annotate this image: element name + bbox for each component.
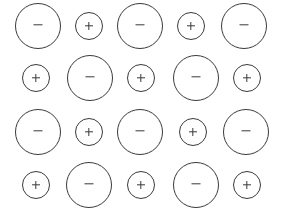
charge-circle-negative-r4c4: [173, 162, 219, 208]
glyph-bar-vertical: [190, 22, 191, 30]
charge-circle-positive-r4c1: [22, 171, 50, 199]
minus-icon: [222, 4, 266, 48]
glyph-bar-vertical: [246, 181, 247, 189]
charge-circle-negative-r3c1: [15, 109, 61, 155]
glyph-bar-horizontal: [34, 24, 43, 25]
glyph-bar-vertical: [35, 181, 36, 189]
glyph-bar-vertical: [35, 74, 36, 82]
charge-circle-positive-r3c4: [179, 118, 207, 146]
plus-icon: [180, 119, 206, 145]
plus-icon: [23, 172, 49, 198]
minus-icon: [16, 4, 60, 48]
charge-grid: [0, 0, 282, 219]
plus-icon: [234, 65, 260, 91]
plus-icon: [234, 172, 260, 198]
glyph-bar-horizontal: [86, 76, 95, 77]
plus-icon: [23, 65, 49, 91]
minus-icon: [67, 163, 111, 207]
glyph-bar-vertical: [192, 128, 193, 136]
plus-icon: [76, 13, 102, 39]
glyph-bar-horizontal: [192, 76, 201, 77]
charge-circle-positive-r1c2: [75, 12, 103, 40]
minus-icon: [118, 4, 162, 48]
minus-icon: [174, 163, 218, 207]
glyph-bar-horizontal: [192, 183, 201, 184]
plus-icon: [128, 172, 154, 198]
glyph-bar-horizontal: [240, 24, 249, 25]
glyph-bar-horizontal: [136, 130, 145, 131]
glyph-bar-horizontal: [34, 130, 43, 131]
minus-icon: [118, 110, 162, 154]
charge-circle-negative-r2c4: [173, 55, 219, 101]
plus-icon: [76, 119, 102, 145]
charge-circle-negative-r1c3: [117, 3, 163, 49]
charge-circle-positive-r4c5: [233, 171, 261, 199]
glyph-bar-horizontal: [136, 24, 145, 25]
charge-circle-positive-r2c5: [233, 64, 261, 92]
plus-icon: [178, 13, 204, 39]
charge-circle-positive-r3c2: [75, 118, 103, 146]
charge-circle-negative-r4c2: [66, 162, 112, 208]
charge-circle-negative-r2c2: [67, 55, 113, 101]
glyph-bar-vertical: [246, 74, 247, 82]
minus-icon: [68, 56, 112, 100]
glyph-bar-vertical: [88, 128, 89, 136]
glyph-bar-horizontal: [242, 130, 251, 131]
plus-icon: [128, 65, 154, 91]
charge-circle-positive-r2c1: [22, 64, 50, 92]
glyph-bar-vertical: [140, 181, 141, 189]
charge-circle-negative-r3c5: [223, 109, 269, 155]
charge-circle-negative-r3c3: [117, 109, 163, 155]
charge-circle-positive-r2c3: [127, 64, 155, 92]
minus-icon: [174, 56, 218, 100]
glyph-bar-vertical: [140, 74, 141, 82]
charge-circle-negative-r1c5: [221, 3, 267, 49]
charge-circle-positive-r4c3: [127, 171, 155, 199]
minus-icon: [224, 110, 268, 154]
charge-circle-positive-r1c4: [177, 12, 205, 40]
minus-icon: [16, 110, 60, 154]
glyph-bar-horizontal: [85, 183, 94, 184]
charge-circle-negative-r1c1: [15, 3, 61, 49]
glyph-bar-vertical: [88, 22, 89, 30]
